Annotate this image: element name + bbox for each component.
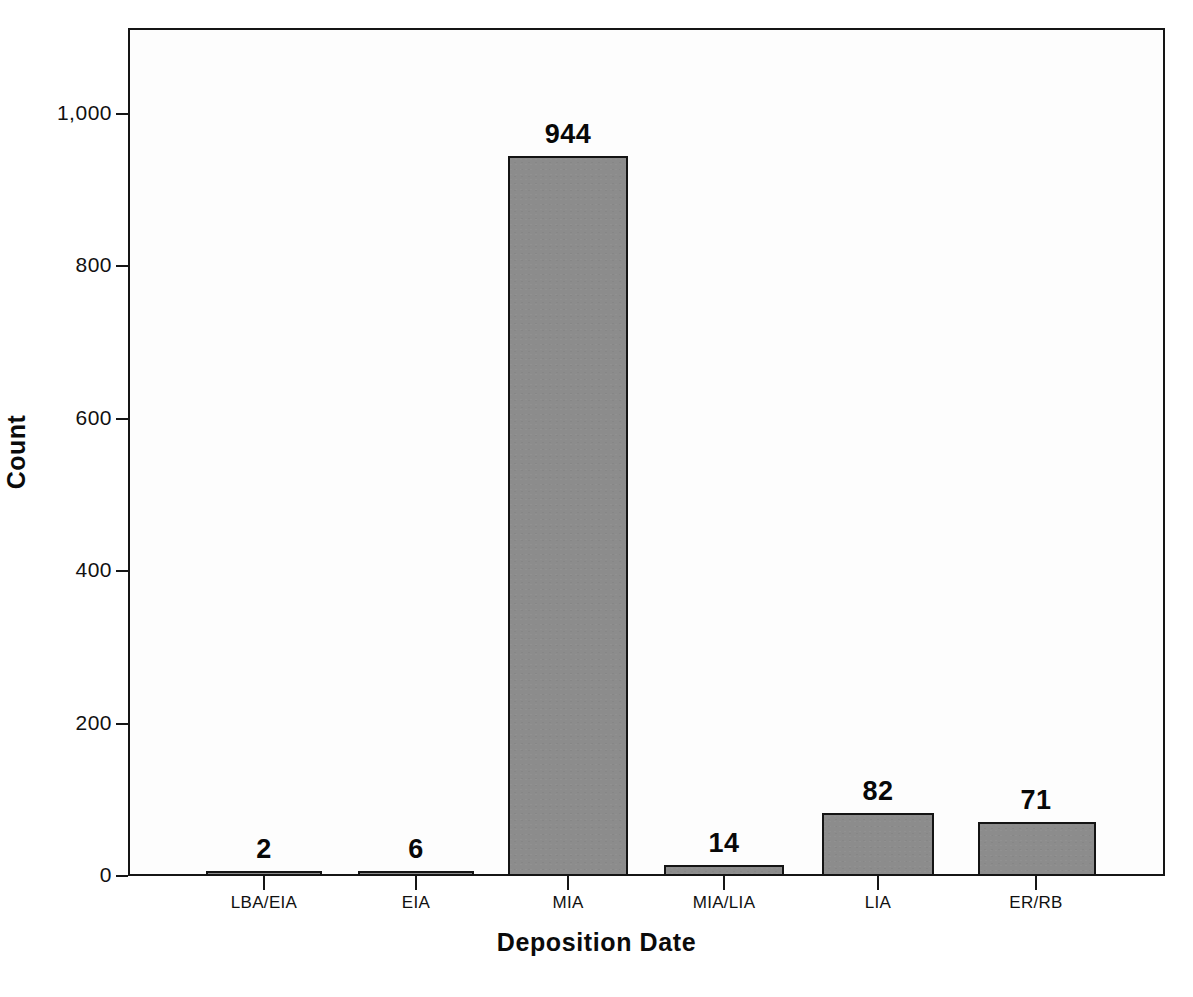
x-axis-tick-mark-lba-eia [263,876,265,890]
plot-area-frame [128,28,1165,876]
y-axis-title: Count [2,415,31,490]
y-axis-tick-label-600: 600 [75,406,112,430]
x-axis-tick-mark-mia [567,876,569,890]
bar-value-label-mia-lia: 14 [708,828,739,859]
y-axis-tick-label-1000: 1,000 [57,101,112,125]
x-axis-tick-mark-eia [415,876,417,890]
y-axis-tick-label-200: 200 [75,711,112,735]
x-axis-tick-label-lba-eia: LBA/EIA [231,893,297,913]
bar-value-label-lia: 82 [862,776,893,807]
bar-mia-lia[interactable] [664,865,784,876]
x-axis-tick-label-lia: LIA [865,893,891,913]
x-axis-tick-mark-er-rb [1035,876,1037,890]
bar-chart-figure: Count 0 200 400 600 800 1,000 2 6 944 14… [0,0,1193,997]
x-axis-tick-label-mia-lia: MIA/LIA [693,893,756,913]
x-axis-tick-mark-lia [877,876,879,890]
y-axis-tick-mark-400 [116,570,128,572]
y-axis-tick-mark-800 [116,265,128,267]
bar-mia[interactable] [508,156,628,876]
bar-value-label-mia: 944 [545,119,592,150]
bar-er-rb[interactable] [978,822,1096,876]
y-axis-tick-label-800: 800 [75,253,112,277]
x-axis-tick-label-er-rb: ER/RB [1009,893,1062,913]
y-axis-tick-label-400: 400 [75,558,112,582]
y-axis-tick-mark-1000 [116,113,128,115]
x-axis-title: Deposition Date [0,928,1193,957]
bar-value-label-er-rb: 71 [1020,785,1051,816]
x-axis-tick-label-mia: MIA [552,893,583,913]
y-axis-tick-mark-600 [116,418,128,420]
x-axis-tick-mark-mia-lia [723,876,725,890]
y-axis-tick-mark-0 [116,875,128,877]
y-axis-tick-mark-200 [116,723,128,725]
x-axis-tick-label-eia: EIA [402,893,430,913]
y-axis-tick-label-0: 0 [100,863,112,887]
bar-value-label-lba-eia: 2 [256,834,272,865]
bar-lia[interactable] [822,813,934,876]
bar-value-label-eia: 6 [408,834,424,865]
